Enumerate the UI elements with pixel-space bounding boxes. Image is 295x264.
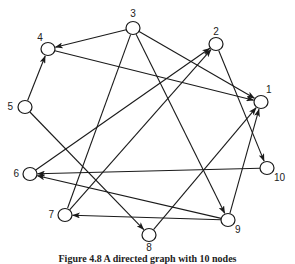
edge-6-to-2 — [36, 48, 210, 170]
node-circle — [41, 43, 55, 56]
edge-5-to-8 — [30, 112, 144, 230]
node-label: 5 — [7, 101, 13, 112]
node-3: 3 — [126, 8, 140, 35]
node-8: 8 — [142, 229, 156, 254]
node-label: 8 — [146, 242, 152, 253]
edge-5-to-4 — [28, 56, 46, 101]
node-layer: 12345678910 — [7, 8, 285, 253]
node-2: 2 — [209, 26, 223, 51]
node-6: 6 — [13, 168, 37, 181]
node-label: 1 — [266, 84, 272, 95]
node-circle — [58, 209, 72, 222]
node-circle — [209, 38, 223, 51]
node-7: 7 — [48, 209, 72, 222]
node-label: 7 — [48, 209, 54, 220]
node-circle — [142, 229, 156, 242]
node-circle — [221, 214, 235, 227]
edge-3-to-1 — [139, 32, 254, 99]
node-circle — [18, 101, 32, 114]
edge-9-to-7 — [73, 215, 222, 220]
edge-9-to-1 — [230, 109, 259, 213]
edge-3-to-7 — [68, 35, 131, 208]
edge-3-to-4 — [55, 30, 126, 48]
node-5: 5 — [7, 101, 32, 114]
node-label: 9 — [235, 224, 241, 235]
edge-4-to-1 — [55, 51, 254, 100]
node-9: 9 — [221, 214, 241, 236]
edge-10-to-6 — [38, 168, 261, 174]
node-circle — [23, 168, 37, 181]
node-circle — [254, 96, 268, 109]
node-label: 3 — [130, 8, 136, 19]
node-10: 10 — [260, 162, 286, 184]
node-1: 1 — [254, 84, 272, 109]
node-label: 2 — [213, 26, 219, 37]
node-label: 10 — [274, 172, 286, 183]
node-label: 4 — [37, 32, 43, 43]
node-label: 6 — [13, 168, 19, 179]
edge-3-to-9 — [136, 34, 225, 213]
node-4: 4 — [37, 32, 55, 56]
node-circle — [260, 162, 274, 175]
edge-layer — [28, 30, 265, 230]
node-circle — [126, 22, 140, 35]
figure-caption: Figure 4.8 A directed graph with 10 node… — [0, 253, 295, 264]
